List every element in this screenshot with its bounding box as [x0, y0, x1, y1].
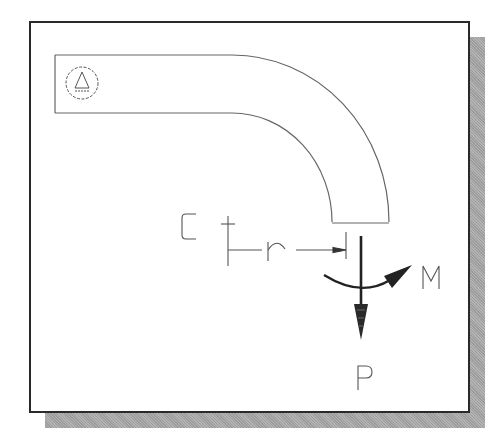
label-m — [423, 266, 439, 289]
label-p — [358, 366, 372, 390]
fixed-support-symbol — [66, 67, 98, 99]
diagram-canvas: C r M P — [0, 0, 504, 444]
radius-dimension — [228, 232, 346, 259]
label-r — [268, 242, 285, 261]
center-mark — [221, 216, 235, 266]
diagram-drawing — [0, 0, 504, 444]
moment-arrow — [324, 265, 412, 288]
label-c — [182, 214, 196, 239]
curved-beam — [55, 55, 389, 223]
